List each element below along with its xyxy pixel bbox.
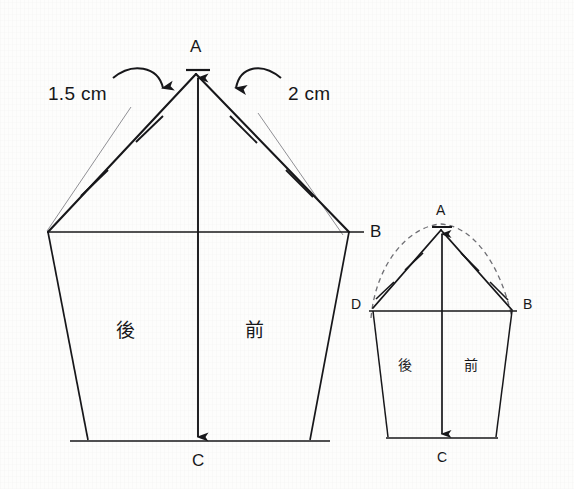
small-back-panel-label: 後 [398, 358, 412, 372]
main-right-side-seam [310, 232, 349, 440]
diagram-canvas: A B C 1.5 cm 2 cm 後 前 A D B C 後 前 [0, 0, 574, 489]
small-figure-group [369, 224, 517, 438]
main-right-dimension-label: 2 cm [288, 84, 330, 103]
small-apex-label: A [436, 203, 446, 217]
small-waist-right-label: B [523, 297, 533, 311]
main-left-tick-upper [136, 116, 163, 142]
small-left-tick-lower [376, 282, 394, 299]
small-hem-label: C [437, 450, 447, 464]
main-left-side-seam [48, 232, 88, 440]
pattern-drawing [0, 0, 574, 489]
main-right-tick-upper [230, 116, 257, 143]
main-figure-group [47, 68, 364, 441]
main-right-guide-line [258, 113, 343, 235]
main-hem-label: C [192, 452, 205, 469]
main-front-panel-label: 前 [245, 321, 264, 340]
small-left-side-seam [373, 311, 388, 437]
small-right-side-seam [496, 311, 512, 437]
main-right-tick-lower [286, 170, 313, 197]
small-right-tick-upper [461, 253, 479, 271]
main-left-dimension-label: 1.5 cm [48, 84, 107, 103]
main-left-guide-line [47, 107, 131, 231]
main-back-panel-label: 後 [116, 321, 135, 340]
main-apex-label: A [190, 38, 202, 55]
small-left-tick-upper [405, 253, 423, 270]
main-right-callout-arrow [236, 68, 281, 88]
small-right-tick-lower [490, 282, 508, 300]
small-front-panel-label: 前 [464, 358, 478, 372]
main-left-tick-lower [81, 170, 108, 196]
small-waist-left-label: D [351, 297, 361, 311]
main-waist-right-label: B [370, 223, 382, 240]
small-right-shoulder-edge [441, 230, 512, 310]
main-left-callout-arrow [113, 68, 163, 88]
